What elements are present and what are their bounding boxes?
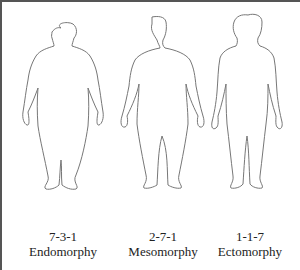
somatotype-code: 2-7-1 (118, 229, 208, 244)
somatotype-name: Ectomorphy (205, 244, 295, 259)
endomorph-silhouette (23, 23, 104, 190)
somatotype-name: Endomorphy (18, 244, 108, 259)
figure-label-endomorphy: 7-3-1 Endomorphy (18, 229, 108, 259)
figure-label-mesomorphy: 2-7-1 Mesomorphy (118, 229, 208, 259)
ectomorph-silhouette (212, 14, 282, 188)
mesomorph-silhouette (121, 17, 204, 189)
somatotype-code: 7-3-1 (18, 229, 108, 244)
figure-label-ectomorphy: 1-1-7 Ectomorphy (205, 229, 295, 259)
somatotype-name: Mesomorphy (118, 244, 208, 259)
somatotype-code: 1-1-7 (205, 229, 295, 244)
